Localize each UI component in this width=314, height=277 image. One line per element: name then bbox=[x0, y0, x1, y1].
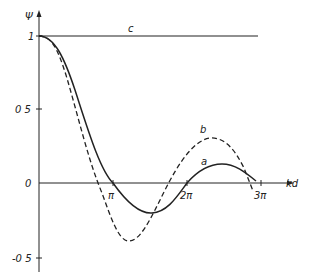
series-a-label: a bbox=[201, 156, 207, 167]
y-tick-label: 1 bbox=[28, 31, 34, 42]
y-axis-arrow-icon bbox=[37, 10, 42, 17]
x-tick-label: 3π bbox=[254, 190, 267, 201]
series-b-label: b bbox=[200, 124, 206, 135]
y-tick-label: -0 5 bbox=[12, 253, 32, 264]
series-c-label: c bbox=[128, 23, 134, 34]
x-tick-label: π bbox=[108, 190, 115, 201]
series-b-line bbox=[39, 36, 253, 241]
chart: Ψ 1 0 5 0 -0 5 π 2π 3π kd c b a bbox=[0, 0, 314, 277]
x-tick-label: 2π bbox=[180, 190, 193, 201]
y-tick-label: 0 bbox=[25, 178, 31, 189]
y-tick-label: 0 5 bbox=[15, 104, 31, 115]
plot-area: Ψ 1 0 5 0 -0 5 π 2π 3π kd c b a bbox=[0, 0, 314, 277]
y-axis-label: Ψ bbox=[25, 11, 34, 22]
x-axis-label: kd bbox=[286, 178, 299, 189]
series-a-line bbox=[39, 36, 256, 213]
